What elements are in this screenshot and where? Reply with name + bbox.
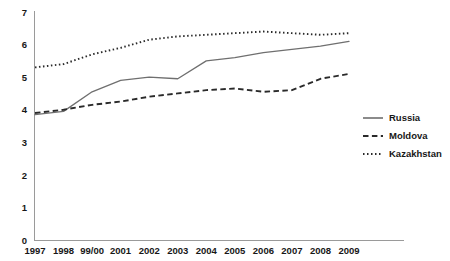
- series-line-kazakhstan: [35, 32, 349, 68]
- x-axis-tick-2004: 2004: [196, 245, 218, 256]
- chart-canvas: 76543210 1997199899/00200120022003200420…: [0, 0, 450, 261]
- x-axis-tick-2002: 2002: [139, 245, 160, 256]
- chart-legend: Russia Moldova Kazakhstan: [363, 112, 442, 159]
- y-axis-tick-7: 7: [22, 7, 27, 18]
- legend-label-russia: Russia: [389, 112, 421, 123]
- series-line-russia: [35, 41, 349, 114]
- y-axis-tick-labels: 76543210: [22, 7, 28, 246]
- x-axis-tick-2007: 2007: [281, 245, 302, 256]
- x-axis-tick-2003: 2003: [167, 245, 188, 256]
- y-axis-tick-6: 6: [22, 39, 27, 50]
- legend-label-kazakhstan: Kazakhstan: [389, 148, 442, 159]
- x-axis-tick-2005: 2005: [224, 245, 246, 256]
- y-axis-tick-4: 4: [22, 104, 28, 115]
- x-axis-tick-2008: 2008: [310, 245, 331, 256]
- y-axis-tick-0: 0: [22, 235, 27, 246]
- x-axis-tick-2006: 2006: [253, 245, 274, 256]
- y-axis-tick-1: 1: [22, 202, 28, 213]
- line-chart: 76543210 1997199899/00200120022003200420…: [0, 0, 450, 261]
- legend-label-moldova: Moldova: [389, 130, 428, 141]
- y-axis-tick-2: 2: [22, 170, 27, 181]
- x-axis-tick-1998: 1998: [53, 245, 74, 256]
- series-layer: [35, 32, 349, 115]
- x-axis-tick-labels: 1997199899/00200120022003200420052006200…: [24, 245, 359, 256]
- y-axis-tick-3: 3: [22, 137, 27, 148]
- x-axis-tick-1997: 1997: [24, 245, 45, 256]
- x-axis-tick-99-00: 99/00: [80, 245, 104, 256]
- x-axis-tick-2009: 2009: [338, 245, 359, 256]
- y-axis-tick-5: 5: [22, 72, 28, 83]
- series-line-moldova: [35, 74, 349, 113]
- x-axis-tick-2001: 2001: [110, 245, 132, 256]
